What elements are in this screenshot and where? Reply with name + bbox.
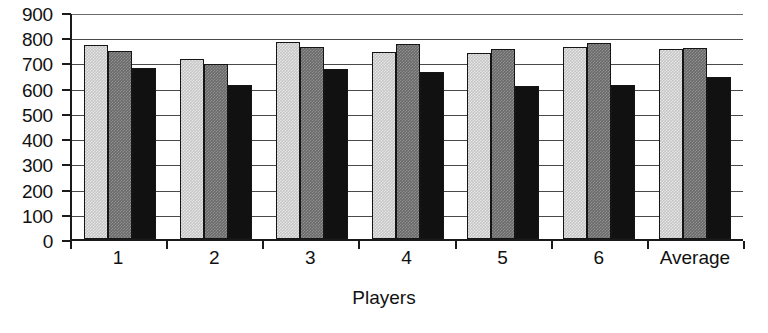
bar-group: [551, 14, 647, 239]
bar-groups: [72, 14, 743, 239]
bar-group: [264, 14, 360, 239]
bar: [683, 48, 707, 239]
bar: [563, 47, 587, 239]
bar-group: [455, 14, 551, 239]
y-tick-label: 700: [22, 55, 53, 74]
bar: [707, 77, 731, 239]
y-tick-label: 600: [22, 80, 53, 99]
bar-group: [72, 14, 168, 239]
y-tick-label: 0: [43, 232, 53, 251]
bar: [491, 49, 515, 239]
bar: [611, 85, 635, 239]
bar: [300, 47, 324, 239]
x-tick-label: 6: [551, 248, 647, 267]
bar: [228, 85, 252, 239]
bar: [515, 86, 539, 239]
bar-group: [647, 14, 743, 239]
bar: [180, 59, 204, 239]
y-tick-label: 500: [22, 105, 53, 124]
y-tick-label: 900: [22, 5, 53, 24]
x-tick-label: 1: [70, 248, 166, 267]
y-tick-label: 100: [22, 206, 53, 225]
x-axis-title: Players: [0, 288, 768, 307]
bar: [132, 68, 156, 240]
y-tick-label: 300: [22, 156, 53, 175]
bar-group: [168, 14, 264, 239]
bar: [396, 44, 420, 239]
y-tick-label: 400: [22, 131, 53, 150]
bar: [84, 45, 108, 239]
bar: [276, 42, 300, 239]
bar: [372, 52, 396, 239]
x-axis-labels: 123456Average: [70, 248, 743, 267]
y-tick-label: 200: [22, 181, 53, 200]
bar-chart: 0100200300400500600700800900 123456Avera…: [0, 0, 768, 333]
bar: [659, 49, 683, 239]
x-tick-label: 3: [262, 248, 358, 267]
x-tick-label: 2: [166, 248, 262, 267]
bar: [324, 69, 348, 239]
x-tick-label: 5: [455, 248, 551, 267]
bar: [204, 64, 228, 239]
bar: [587, 43, 611, 239]
plot-area: [70, 14, 743, 241]
x-tick-mark: [743, 241, 745, 249]
bar: [108, 51, 132, 239]
y-axis: 0100200300400500600700800900: [0, 0, 70, 333]
bar-group: [360, 14, 456, 239]
y-tick-label: 800: [22, 30, 53, 49]
x-tick-label: 4: [358, 248, 454, 267]
x-tick-label: Average: [647, 248, 743, 267]
bar: [467, 53, 491, 239]
bar: [420, 72, 444, 239]
